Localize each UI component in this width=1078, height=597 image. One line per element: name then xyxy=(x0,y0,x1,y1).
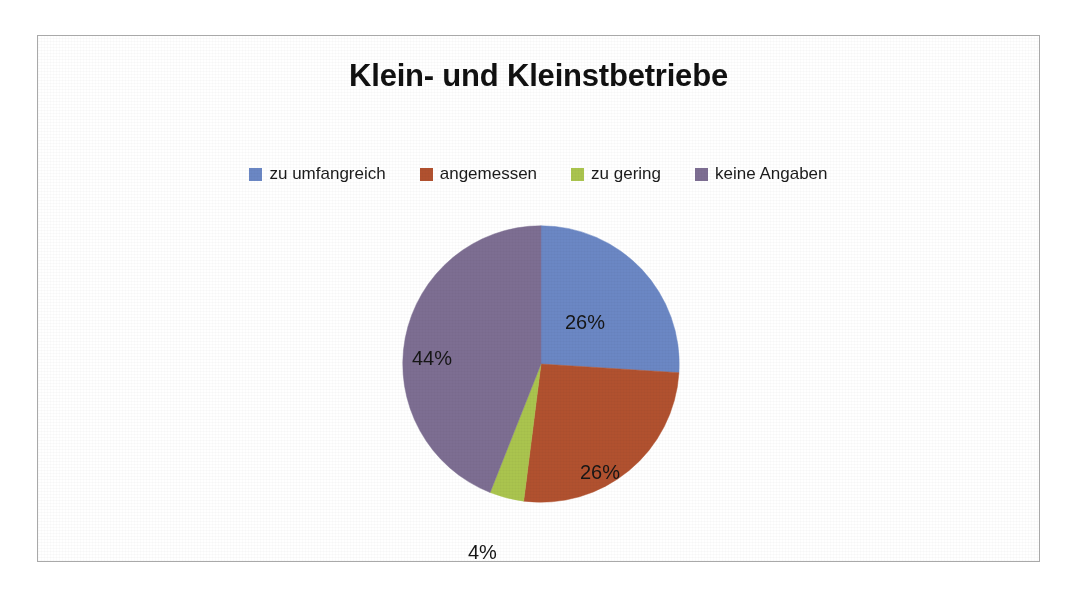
pie-slice-label-zu-gering: 4% xyxy=(468,541,497,564)
pie-slice-label-angemessen: 26% xyxy=(580,461,620,484)
pie-slice-label-keine-angaben: 44% xyxy=(412,347,452,370)
pie-slice-label-zu-umfangreich: 26% xyxy=(565,311,605,334)
chart-frame: Klein- und Kleinstbetriebe zu umfangreic… xyxy=(37,35,1040,562)
pie-chart-area: 26% 26% 4% 44% xyxy=(38,36,1039,561)
pie-slice-0[interactable] xyxy=(541,226,679,373)
